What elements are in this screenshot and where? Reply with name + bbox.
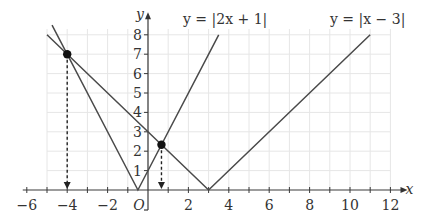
x-tick-label: −6 bbox=[16, 197, 37, 213]
x-tick-label: −4 bbox=[57, 197, 78, 213]
labels: −6−4−22468101212345678xyOy = |2x + 1|y =… bbox=[16, 6, 413, 213]
drop-arrow bbox=[158, 182, 165, 189]
intersection-point bbox=[157, 141, 165, 149]
x-axis-label: x bbox=[406, 181, 414, 197]
label-abs-x-minus-3: y = |x − 3| bbox=[329, 11, 405, 28]
y-tick-label: 5 bbox=[133, 85, 142, 101]
x-tick-label: 4 bbox=[224, 197, 233, 213]
y-tick-label: 4 bbox=[133, 104, 142, 120]
label-abs-2x-plus-1: y = |2x + 1| bbox=[182, 11, 267, 28]
y-tick-label: 2 bbox=[133, 143, 142, 159]
x-tick-label: −2 bbox=[97, 197, 118, 213]
x-tick-label: 12 bbox=[381, 197, 399, 213]
y-tick-label: 1 bbox=[133, 163, 142, 179]
grid bbox=[47, 29, 390, 190]
y-tick-label: 7 bbox=[133, 46, 142, 62]
y-tick-label: 8 bbox=[133, 27, 142, 43]
chart: −6−4−22468101212345678xyOy = |2x + 1|y =… bbox=[0, 0, 423, 218]
intersection-point bbox=[63, 50, 71, 58]
y-axis-arrow bbox=[145, 12, 151, 19]
y-tick-label: 3 bbox=[133, 124, 142, 140]
x-tick-label: 8 bbox=[305, 197, 314, 213]
y-tick-label: 6 bbox=[133, 66, 142, 82]
drop-arrow bbox=[64, 182, 71, 189]
y-axis-label: y bbox=[135, 6, 145, 22]
x-tick-label: 6 bbox=[265, 197, 274, 213]
x-tick-label: 10 bbox=[341, 197, 359, 213]
origin-label: O bbox=[133, 197, 145, 213]
marks bbox=[63, 50, 166, 189]
x-tick-label: 2 bbox=[184, 197, 193, 213]
